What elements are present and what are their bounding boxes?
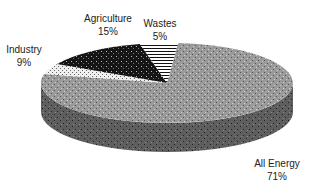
label-wastes: Wastes 5% (135, 17, 185, 43)
label-industry: Industry 9% (2, 43, 46, 69)
label-pct: 5% (135, 30, 185, 43)
label-pct: 9% (2, 56, 46, 69)
label-name: Industry (2, 43, 46, 56)
label-pct: 71% (247, 170, 307, 183)
label-name: All Energy (247, 157, 307, 170)
label-name: Wastes (135, 17, 185, 30)
label-all-energy: All Energy 71% (247, 157, 307, 183)
label-agriculture: Agriculture 15% (78, 12, 138, 38)
label-pct: 15% (78, 25, 138, 38)
label-name: Agriculture (78, 12, 138, 25)
